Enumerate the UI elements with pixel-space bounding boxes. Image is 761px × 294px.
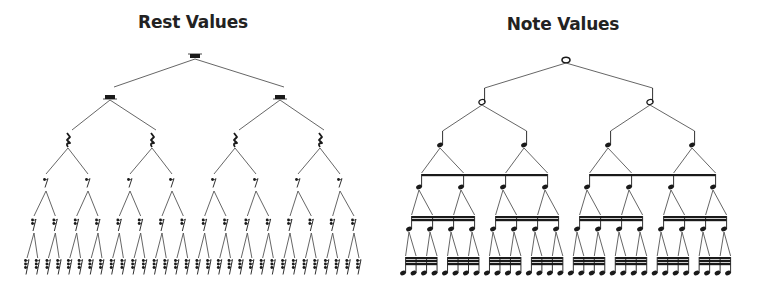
quarter-note-icon: [520, 131, 527, 148]
thirty-second-note-beamed-group: [525, 257, 564, 276]
thirty-second-note-beamed-group: [399, 257, 438, 276]
half-note-icon: [646, 88, 654, 106]
half-note-row: [443, 88, 695, 131]
thirty-second-note-beamed-group: [609, 257, 648, 276]
thirty-second-note-beamed-group: [483, 257, 522, 276]
half-note-icon: [478, 88, 486, 106]
sixteenth-note-beamed-group: [489, 216, 559, 232]
eighth-note-row: [412, 174, 727, 215]
whole-note-icon: [562, 57, 570, 63]
whole-note-row: [485, 57, 653, 88]
sixteenth-note-beamed-group: [573, 216, 643, 232]
eighth-note-beamed-group: [415, 174, 548, 190]
thirty-second-note-beamed-group: [567, 257, 606, 276]
quarter-note-row: [422, 131, 716, 173]
quarter-note-icon: [604, 131, 611, 148]
sixteenth-note-beamed-group: [657, 216, 727, 232]
thirty-second-note-row: [399, 257, 731, 276]
eighth-note-beamed-group: [583, 174, 716, 190]
sixteenth-note-row: [405, 216, 730, 256]
quarter-note-icon: [436, 131, 443, 148]
sixteenth-note-beamed-group: [405, 216, 475, 232]
thirty-second-note-beamed-group: [693, 257, 732, 276]
thirty-second-note-beamed-group: [651, 257, 690, 276]
quarter-note-icon: [688, 131, 695, 148]
thirty-second-note-beamed-group: [441, 257, 480, 276]
note-values-tree: [0, 0, 761, 294]
